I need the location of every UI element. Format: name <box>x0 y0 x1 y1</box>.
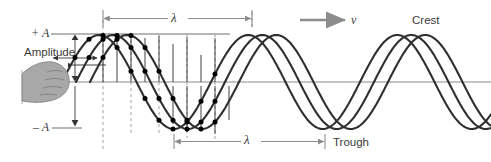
wavelength-top-dimension <box>103 10 252 27</box>
minus-amplitude-label: – A <box>33 121 49 133</box>
amplitude-label: Amplitude <box>24 47 75 59</box>
displacement-arrows <box>72 36 229 134</box>
crest-label: Crest <box>412 15 439 27</box>
hand-icon <box>22 62 69 104</box>
plus-amplitude-label: + A <box>31 27 49 39</box>
trough-label: Trough <box>333 137 369 149</box>
wavelength-bottom-label: λ <box>244 133 250 146</box>
wave-figure: + A Amplitude – A λ λ v Crest Trough <box>0 0 491 162</box>
wavelength-top-label: λ <box>171 11 177 24</box>
velocity-label: v <box>351 14 356 26</box>
